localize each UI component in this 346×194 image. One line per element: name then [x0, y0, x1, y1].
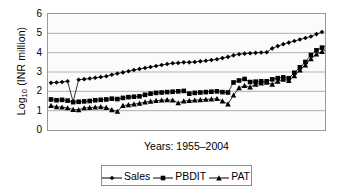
legend-item-pat: PAT — [208, 166, 252, 185]
marker-square — [93, 98, 98, 103]
marker-diamond — [159, 63, 164, 68]
marker-diamond — [303, 36, 308, 41]
marker-square — [54, 98, 59, 103]
marker-square — [71, 100, 76, 105]
marker-diamond — [65, 79, 70, 84]
marker-square — [204, 90, 209, 95]
chart-legend: SalesPBDITPAT — [101, 165, 252, 186]
marker-square — [248, 80, 253, 85]
marker-diamond — [226, 55, 231, 60]
marker-diamond — [215, 57, 220, 62]
marker-square — [121, 96, 126, 101]
y-tick-2: 2 — [28, 86, 42, 96]
marker-diamond — [287, 40, 292, 45]
marker-diamond — [49, 81, 54, 86]
y-tick-0: 0 — [28, 125, 42, 135]
marker-triangle — [175, 100, 181, 105]
marker-square — [170, 89, 175, 94]
marker-diamond — [143, 66, 148, 71]
marker-square — [82, 99, 87, 104]
marker-diamond — [192, 60, 197, 65]
marker-square — [132, 94, 137, 99]
marker-diamond — [104, 74, 109, 79]
y-axis-tick-labels: 6543210 — [28, 0, 42, 194]
y-axis-title-base: Log — [15, 97, 27, 115]
marker-diamond — [93, 76, 98, 81]
marker-diamond — [110, 175, 115, 180]
marker-square — [115, 97, 120, 102]
marker-square — [165, 90, 170, 95]
y-tick-3: 3 — [28, 67, 42, 77]
plot-canvas — [48, 14, 325, 130]
legend-label: Sales — [123, 170, 152, 182]
marker-diamond — [148, 65, 153, 70]
marker-square — [209, 89, 214, 94]
marker-diamond — [231, 53, 236, 58]
marker-square — [143, 93, 148, 98]
marker-diamond — [176, 61, 181, 66]
x-axis-title: Years: 1955–2004 — [47, 140, 326, 152]
series-pbdit — [49, 43, 325, 105]
marker-square — [148, 91, 153, 96]
y-axis-title-rest: (INR million) — [15, 27, 27, 89]
marker-triangle — [220, 98, 226, 103]
marker-square — [49, 97, 54, 102]
marker-triangle — [242, 83, 248, 88]
marker-diamond — [292, 39, 297, 44]
series-sales — [49, 30, 325, 104]
marker-square — [110, 96, 115, 101]
marker-diamond — [204, 58, 209, 63]
y-tick-5: 5 — [28, 28, 42, 38]
marker-square — [104, 97, 109, 102]
marker-square — [126, 95, 131, 100]
marker-diamond — [253, 51, 258, 56]
marker-square — [159, 90, 164, 95]
y-axis-title: Log10 (INR million) — [14, 1, 28, 141]
marker-square — [181, 89, 186, 94]
marker-square — [76, 99, 81, 104]
marker-square — [98, 98, 103, 103]
marker-diamond — [170, 61, 175, 66]
marker-triangle — [109, 107, 115, 112]
marker-diamond — [137, 67, 142, 72]
marker-diamond — [154, 64, 159, 69]
marker-square — [87, 99, 92, 104]
y-tick-1: 1 — [28, 106, 42, 116]
legend-marker-triangle-icon — [208, 170, 230, 182]
legend-marker-square-icon — [152, 170, 174, 182]
marker-square — [60, 98, 65, 103]
legend-item-pbdit: PBDIT — [152, 166, 208, 185]
marker-diamond — [187, 60, 192, 65]
marker-diamond — [54, 80, 59, 85]
marker-diamond — [82, 77, 87, 82]
marker-triangle — [269, 82, 275, 87]
marker-diamond — [165, 62, 170, 67]
marker-diamond — [98, 75, 103, 80]
marker-diamond — [198, 59, 203, 64]
marker-square — [231, 80, 236, 85]
marker-diamond — [248, 51, 253, 56]
legend-item-sales: Sales — [101, 166, 152, 185]
marker-diamond — [209, 58, 214, 63]
marker-diamond — [281, 42, 286, 47]
marker-diamond — [314, 32, 319, 37]
marker-diamond — [126, 69, 131, 74]
marker-square — [215, 89, 220, 94]
marker-square — [192, 91, 197, 96]
legend-label: PBDIT — [174, 170, 208, 182]
marker-square — [270, 77, 275, 82]
marker-diamond — [181, 60, 186, 65]
marker-square — [237, 78, 242, 83]
marker-square — [220, 90, 225, 95]
y-tick-4: 4 — [28, 48, 42, 58]
marker-diamond — [309, 34, 314, 39]
marker-square — [242, 77, 247, 82]
marker-diamond — [110, 72, 115, 77]
marker-diamond — [242, 51, 247, 56]
marker-square — [198, 90, 203, 95]
legend-label: PAT — [230, 170, 252, 182]
marker-diamond — [87, 76, 92, 81]
marker-diamond — [270, 46, 275, 51]
marker-triangle — [225, 101, 231, 106]
legend-marker-diamond-icon — [101, 170, 123, 182]
